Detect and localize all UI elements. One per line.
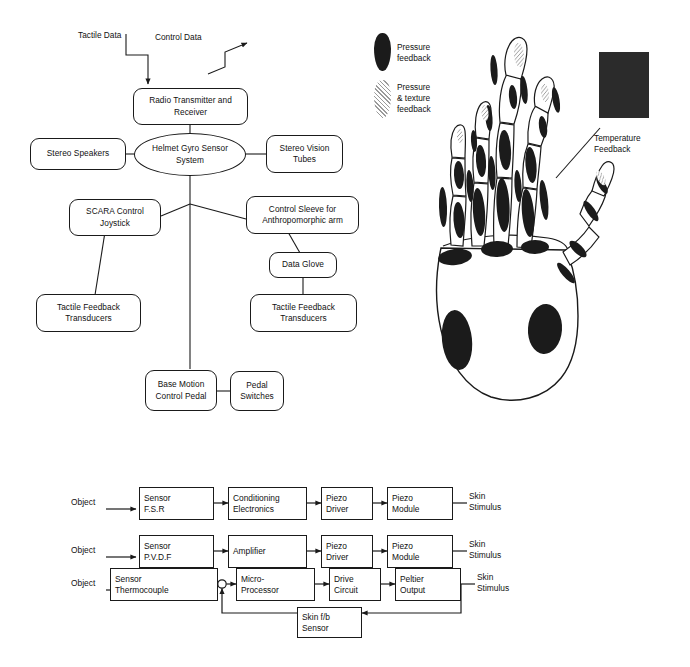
link-trunk-sleeve	[190, 204, 246, 219]
node-control-sleeve[interactable]: Control Sleeve for Anthropomorphic arm	[246, 196, 359, 234]
block-peltier-output[interactable]: Peltier Output	[395, 568, 461, 601]
block-conditioning-electronics[interactable]: Conditioning Electronics	[228, 487, 307, 520]
block-sensor-fsr[interactable]: Sensor F.S.R	[139, 487, 214, 520]
block-micro-processor[interactable]: Micro- Processor	[236, 568, 315, 601]
node-pedal-switches[interactable]: Pedal Switches	[230, 371, 284, 411]
pressure-feedback-swatch-icon	[374, 33, 391, 71]
node-tactile-feedback-transducers-right[interactable]: Tactile Feedback Transducers	[250, 294, 357, 332]
finger-bones	[451, 38, 555, 196]
row-thermocouple-input-label: Object	[71, 578, 95, 589]
block-piezo-module-1[interactable]: Piezo Module	[387, 487, 453, 520]
tactile-data-label: Tactile Data	[78, 30, 121, 41]
node-scara-control-joystick[interactable]: SCARA Control Joystick	[69, 199, 161, 236]
node-stereo-speakers[interactable]: Stereo Speakers	[30, 138, 126, 170]
block-sensor-pvdf[interactable]: Sensor P.V.D.F	[139, 535, 214, 568]
block-piezo-module-2[interactable]: Piezo Module	[387, 535, 453, 568]
pressure-feedback-label: Pressure feedback	[397, 42, 431, 64]
pressure-texture-feedback-label: Pressure & texture feedback	[397, 82, 431, 114]
tactile-data-arrow	[126, 34, 148, 84]
node-data-glove[interactable]: Data Glove	[269, 252, 337, 278]
block-sensor-thermocouple[interactable]: Sensor Thermocouple	[110, 568, 218, 601]
block-piezo-driver-1[interactable]: Piezo Driver	[321, 487, 373, 520]
row-thermocouple-output-label: Skin Stimulus	[477, 572, 509, 594]
row-pvdf-output-label: Skin Stimulus	[469, 539, 501, 561]
temperature-feedback-label: Temperature Feedback	[594, 133, 641, 155]
pressure-texture-feedback-swatch-icon	[374, 80, 391, 118]
block-amplifier[interactable]: Amplifier	[228, 535, 307, 568]
link-sleeve-glove	[288, 232, 300, 253]
row-fsr-output-label: Skin Stimulus	[469, 491, 501, 513]
hand-illustration	[436, 38, 614, 401]
summing-junction	[218, 580, 226, 588]
node-stereo-vision-tubes[interactable]: Stereo Vision Tubes	[266, 135, 343, 173]
link-trunk-scara	[161, 204, 190, 216]
node-base-motion-control-pedal[interactable]: Base Motion Control Pedal	[145, 370, 217, 411]
temperature-feedback-swatch-icon	[599, 52, 649, 118]
block-piezo-driver-2[interactable]: Piezo Driver	[321, 535, 373, 568]
row-fsr-input-label: Object	[71, 497, 95, 508]
row-pvdf-input-label: Object	[71, 545, 95, 556]
node-radio-transmitter[interactable]: Radio Transmitter and Receiver	[133, 88, 248, 125]
block-skin-fb-sensor[interactable]: Skin f/b Sensor	[297, 607, 362, 638]
node-helmet-gyro-sensor-system[interactable]: Helmet Gyro Sensor System	[134, 133, 246, 176]
control-data-label: Control Data	[155, 32, 202, 43]
figure-canvas: Tactile Data Control Data Radio Transmit…	[0, 0, 690, 667]
control-data-arrow	[208, 43, 247, 74]
node-tactile-feedback-transducers-left[interactable]: Tactile Feedback Transducers	[36, 294, 141, 332]
link-scara-transducers	[95, 232, 105, 295]
block-drive-circuit[interactable]: Drive Circuit	[329, 568, 381, 601]
